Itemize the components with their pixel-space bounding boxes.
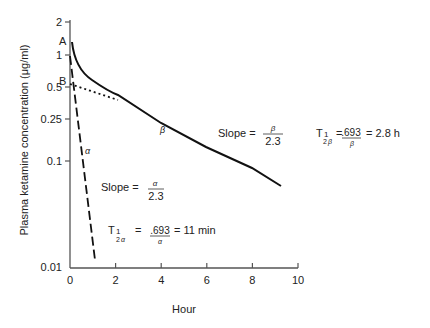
svg-text:α: α [153,179,158,188]
svg-text:=: = [135,224,141,236]
svg-text:α: α [158,238,163,245]
y-tick-label: 1 [56,49,62,61]
svg-text:β: β [349,140,354,148]
y-tick-label: 0.1 [47,155,62,167]
svg-text:= 11 min: = 11 min [174,224,216,236]
y-axis: 2 1 0.5 0.25 0.1 0.01 Plasma ketamine co… [18,16,70,273]
svg-text:2: 2 [323,138,327,145]
svg-text:.693: .693 [150,225,170,236]
x-tick-label: 4 [158,274,164,286]
svg-text:T: T [108,224,115,236]
svg-text:2.3: 2.3 [148,190,163,202]
svg-text:Slope =: Slope = [101,181,139,193]
x-tick-label: 10 [292,274,304,286]
point-b-label: B [59,75,66,87]
beta-line-label: β [159,125,165,135]
x-axis: 0 2 4 6 8 10 Hour [67,263,304,315]
x-axis-label: Hour [172,303,196,315]
alpha-line-label: α [85,146,91,156]
pharmacokinetic-chart: 2 1 0.5 0.25 0.1 0.01 Plasma ketamine co… [0,0,430,328]
y-tick-label: 0.25 [41,113,62,125]
x-tick-label: 0 [67,274,73,286]
svg-text:T: T [316,127,323,139]
svg-text:= 2.8 h: = 2.8 h [366,127,400,139]
svg-text:α: α [121,236,126,243]
alpha-half-life-annotation: T 1 2 α = .693 α = 11 min [108,224,216,245]
y-tick-label: 2 [56,16,62,28]
svg-text:.693: .693 [341,127,361,138]
x-tick-label: 2 [113,274,119,286]
y-tick-label: 0.01 [41,261,62,273]
alpha-slope-annotation: Slope = α 2.3 [101,179,164,202]
svg-text:2.3: 2.3 [265,135,280,147]
alpha-phase-line [70,56,95,260]
x-tick-label: 6 [204,274,210,286]
beta-half-life-annotation: T 1 2 β = .693 β = 2.8 h [316,127,400,148]
point-a-label: A [59,35,67,47]
svg-text:β: β [270,124,276,133]
svg-text:β: β [327,138,332,146]
svg-text:Slope =: Slope = [218,127,256,139]
beta-slope-annotation: Slope = β 2.3 [218,124,283,147]
concentration-curve [72,42,281,186]
svg-text:1: 1 [116,227,121,236]
y-axis-label: Plasma ketamine concentration (μg/ml) [18,45,30,236]
x-tick-label: 8 [249,274,255,286]
svg-text:2: 2 [116,236,120,243]
